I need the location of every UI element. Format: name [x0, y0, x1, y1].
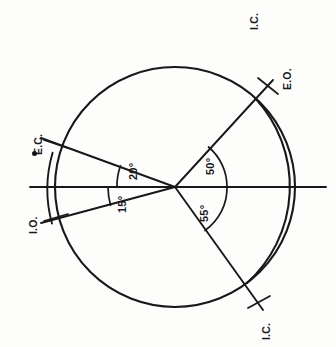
- outer-arc-left: [47, 153, 52, 224]
- tick-eo-leader: [258, 78, 278, 94]
- label-ic-bottom: I.C.: [260, 323, 272, 340]
- tick-ic-leader: [248, 296, 270, 308]
- angle-arc-15: [108, 187, 111, 205]
- valve-timing-diagram: [0, 0, 336, 347]
- label-ic-top: I.C.: [248, 13, 260, 30]
- ec-bullet-marker: [32, 151, 37, 156]
- ray-ic: [175, 187, 263, 310]
- angle-label-15: 15°: [116, 196, 128, 213]
- label-io: I.O.: [27, 216, 39, 234]
- label-eo: E.O.: [281, 68, 293, 90]
- angle-label-50: 50°: [204, 158, 216, 175]
- diagram-ink: [30, 67, 326, 310]
- figure-page: I.C. E.O. E.C. I.O. I.C. 50° 55° 20° 15°: [0, 0, 336, 347]
- angle-label-20: 20°: [127, 163, 139, 180]
- angle-label-55: 55°: [198, 205, 210, 222]
- angle-arc-20: [117, 166, 121, 187]
- outer-arc-right: [247, 99, 290, 284]
